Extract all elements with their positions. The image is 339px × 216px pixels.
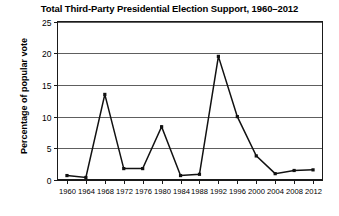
- data-point-marker: [103, 93, 106, 96]
- data-point-marker: [293, 169, 296, 172]
- x-tick-marks-group: [68, 180, 314, 184]
- data-series-line: [67, 56, 313, 177]
- x-tick-label: 1996: [229, 187, 246, 196]
- data-point-marker: [311, 168, 314, 171]
- y-tick-label: 10: [42, 113, 52, 123]
- data-point-marker: [198, 173, 201, 176]
- x-tick-label: 2008: [286, 187, 303, 196]
- data-point-marker: [274, 172, 277, 175]
- data-point-marker: [236, 115, 239, 118]
- data-point-marker: [141, 167, 144, 170]
- chart-plot-area: 0510152025 19601964196819721976198019841…: [0, 0, 339, 216]
- plot-frame: [58, 22, 323, 181]
- x-tick-label: 1992: [210, 187, 227, 196]
- x-tick-label: 1968: [97, 187, 114, 196]
- data-point-marker: [179, 174, 182, 177]
- data-point-marker: [65, 174, 68, 177]
- data-markers-group: [65, 55, 314, 179]
- chart-container: Total Third-Party Presidential Election …: [0, 0, 339, 216]
- x-tick-label: 1972: [116, 187, 133, 196]
- y-tick-label: 25: [42, 18, 52, 28]
- data-point-marker: [84, 176, 87, 179]
- data-point-marker: [255, 154, 258, 157]
- y-tick-labels-group: 0510152025: [42, 18, 52, 186]
- x-tick-label: 1976: [135, 187, 152, 196]
- x-tick-labels-group: 1960196419681972197619801984198819921996…: [59, 187, 322, 196]
- x-tick-label: 2004: [267, 187, 284, 196]
- x-tick-label: 1960: [59, 187, 76, 196]
- y-tick-label: 15: [42, 81, 52, 91]
- y-tick-label: 0: [47, 176, 52, 186]
- y-tick-label: 20: [42, 49, 52, 59]
- data-point-marker: [217, 55, 220, 58]
- x-tick-label: 2012: [305, 187, 322, 196]
- x-tick-label: 1984: [173, 187, 190, 196]
- x-tick-label: 1988: [191, 187, 208, 196]
- x-tick-label: 1980: [154, 187, 171, 196]
- x-tick-label: 1964: [78, 187, 95, 196]
- data-point-marker: [122, 167, 125, 170]
- x-tick-label: 2000: [248, 187, 265, 196]
- data-point-marker: [160, 125, 163, 128]
- y-tick-label: 5: [47, 144, 52, 154]
